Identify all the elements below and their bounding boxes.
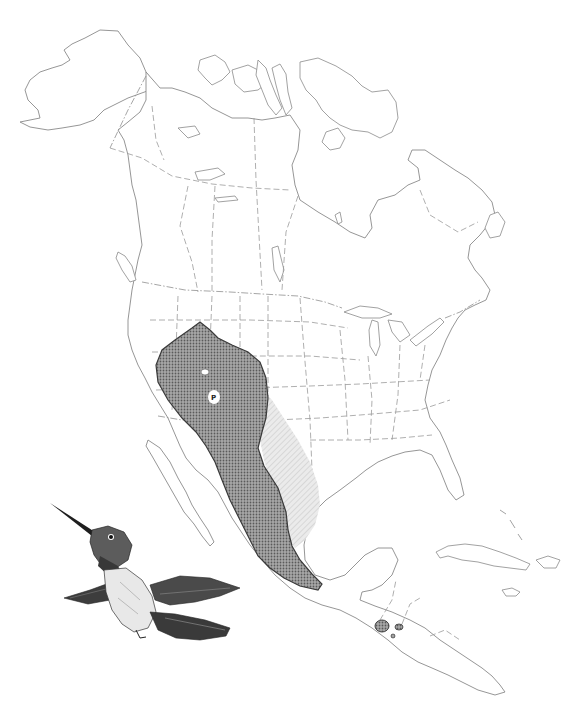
- baffin-island: [300, 58, 398, 138]
- range-map: P: [0, 0, 562, 704]
- bahamas: [500, 510, 522, 540]
- permanent-label: P: [211, 394, 216, 402]
- vancouver-island: [116, 252, 136, 282]
- arctic-island: [322, 128, 345, 150]
- hispaniola: [536, 556, 560, 568]
- range-map-figure: P: [0, 0, 562, 704]
- range-gap: [201, 369, 209, 375]
- arctic-island: [198, 55, 230, 85]
- cuba: [436, 544, 530, 570]
- winter-range: [395, 624, 403, 630]
- winter-range: [375, 620, 389, 632]
- jamaica: [502, 588, 520, 596]
- alaska-outline: [20, 30, 152, 130]
- winter-range: [391, 634, 395, 638]
- hummingbird-illustration: [50, 503, 240, 640]
